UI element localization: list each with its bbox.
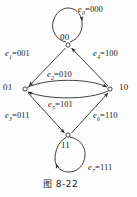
node-label-10: 10 [119, 83, 128, 92]
edge-label-e0: e0=000 [78, 5, 103, 16]
edge-label-e3: e3=011 [5, 111, 30, 122]
edge-e5-path [28, 91, 108, 98]
node-label-11: 11 [61, 141, 70, 150]
edge-label-e7: e7=111 [88, 163, 112, 174]
node-label-00: 00 [60, 33, 69, 42]
edge-label-e1: e1=001 [5, 49, 30, 60]
edge-value-e0: =000 [85, 4, 103, 14]
edge-label-e2: e2=010 [47, 70, 72, 81]
edge-value-e4: =100 [100, 48, 118, 58]
edge-value-e3: =011 [12, 110, 30, 120]
edge-label-e6: e6=110 [93, 111, 118, 122]
vertex-11[interactable] [66, 133, 70, 137]
node-label-01: 01 [3, 83, 12, 92]
figure-container: 00 01 10 11 e0=000 e1=001 e2=010 e3=011 … [0, 0, 137, 197]
edge-value-e1: =001 [12, 48, 30, 58]
edge-value-e2: =010 [54, 69, 72, 79]
edge-label-e5: e5=101 [48, 100, 73, 111]
vertex-00[interactable] [66, 43, 70, 47]
vertex-10[interactable] [108, 87, 112, 91]
figure-caption: 图 8-22 [43, 180, 78, 189]
edge-value-e7: =111 [95, 162, 112, 172]
edge-label-e4: e4=100 [93, 49, 118, 60]
edge-e2-path [27, 80, 107, 87]
edge-value-e5: =101 [55, 99, 73, 109]
edge-value-e6: =110 [100, 110, 118, 120]
edge-e0-path-tail [70, 21, 82, 42]
vertex-01[interactable] [23, 87, 27, 91]
